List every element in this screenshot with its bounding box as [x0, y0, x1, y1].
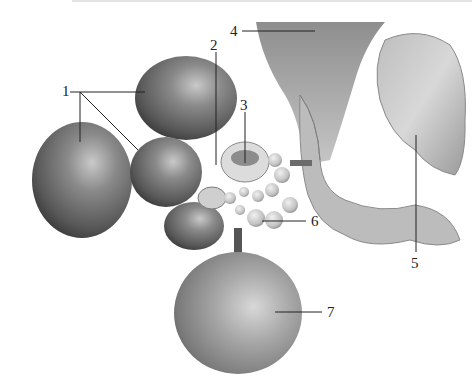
small-follicle: [252, 190, 264, 202]
follicle-middle: [130, 137, 202, 207]
small-follicle: [235, 205, 245, 215]
calyx-left: [198, 187, 226, 209]
follicle-left: [32, 122, 132, 238]
oviduct-coil-upper: [377, 34, 465, 175]
label-4: 4: [230, 24, 238, 39]
small-follicle: [274, 167, 290, 183]
ligament-membrane: [256, 22, 385, 165]
label-6: 6: [311, 214, 319, 229]
small-follicle: [265, 211, 283, 229]
small-follicle: [268, 153, 282, 167]
label-2: 2: [210, 38, 218, 53]
label-5: 5: [411, 256, 419, 271]
small-follicle: [265, 183, 279, 197]
connecting-stalk: [290, 160, 312, 166]
small-follicle: [224, 192, 236, 204]
small-follicle: [239, 187, 249, 197]
label-7: 7: [327, 305, 335, 320]
mature-follicle: [174, 252, 302, 374]
anatomy-photo: [0, 0, 472, 392]
label-1: 1: [62, 84, 70, 99]
follicle-top: [135, 56, 237, 140]
small-follicle: [282, 197, 298, 213]
small-follicle: [247, 209, 265, 227]
figure-canvas: 1 2 3 4 5 6 7: [0, 0, 472, 392]
label-3: 3: [240, 98, 248, 113]
